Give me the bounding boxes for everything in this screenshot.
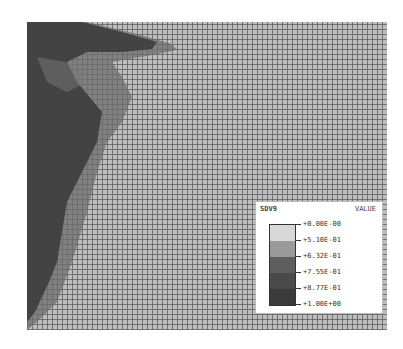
legend-swatch-4 <box>270 273 295 289</box>
legend-variable: SDV9 <box>260 205 277 213</box>
legend-swatch-3 <box>270 257 295 273</box>
legend-swatch-5 <box>270 289 295 305</box>
legend-header: VALUE <box>355 205 376 213</box>
legend-swatch-2 <box>270 241 295 257</box>
legend-label: +6.32E-01 <box>303 252 341 260</box>
legend-tick <box>295 304 301 305</box>
legend-swatch-1 <box>270 225 295 241</box>
legend-tick <box>295 256 301 257</box>
legend-tick <box>295 224 301 225</box>
legend-label: +8.77E-01 <box>303 284 341 292</box>
legend-tick <box>295 240 301 241</box>
legend-color-bar <box>269 224 296 306</box>
legend-label: +0.00E-00 <box>303 220 341 228</box>
legend-label: +7.55E-01 <box>303 268 341 276</box>
legend-label: +5.10E-01 <box>303 236 341 244</box>
legend-box: SDV9 VALUE +0.00E-00 +5.10E-01 +6.32E-01… <box>255 201 383 314</box>
legend-tick <box>295 272 301 273</box>
legend-label: +1.00E+00 <box>303 300 341 308</box>
legend-tick <box>295 288 301 289</box>
